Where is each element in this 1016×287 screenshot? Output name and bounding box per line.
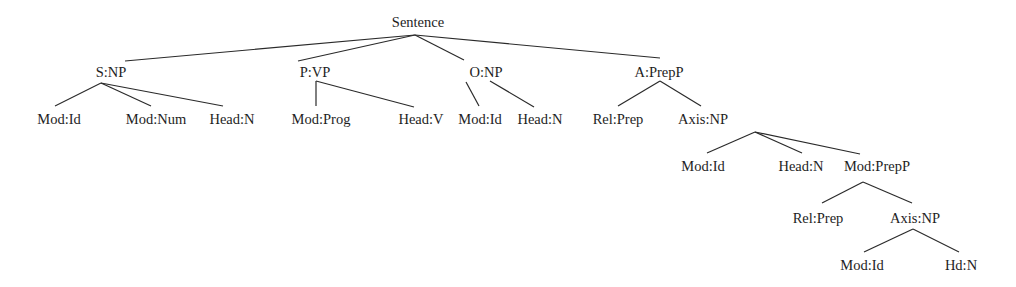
tree-node-root: Sentence <box>392 14 444 30</box>
tree-edge-o-np-to-mod-id-2 <box>466 82 479 106</box>
tree-node-rel-prep-2: Rel:Prep <box>793 210 844 226</box>
tree-node-mod-prog: Mod:Prog <box>292 111 351 127</box>
tree-edge-s-np-to-mod-num <box>101 83 151 106</box>
tree-edge-root-to-a-prepp <box>415 35 660 58</box>
tree-node-mod-id-3: Mod:Id <box>681 158 725 174</box>
tree-node-mod-prepp: Mod:PrepP <box>844 158 910 174</box>
tree-edge-a-prepp-to-axis-np-1 <box>660 81 701 106</box>
tree-edge-mod-prepp-to-axis-np-2 <box>863 182 912 203</box>
tree-edge-s-np-to-head-n-1 <box>101 83 223 106</box>
tree-edge-a-prepp-to-rel-prep-1 <box>618 81 660 106</box>
tree-node-head-n-3: Head:N <box>778 158 824 174</box>
tree-edge-axis-np-1-to-mod-id-3 <box>707 132 755 153</box>
tree-node-mod-num: Mod:Num <box>126 111 187 127</box>
tree-node-head-n-1: Head:N <box>209 111 255 127</box>
tree-node-mod-id-1: Mod:Id <box>37 111 81 127</box>
tree-node-s-np: S:NP <box>96 64 127 80</box>
tree-node-head-v: Head:V <box>398 111 444 127</box>
tree-node-hd-n: Hd:N <box>945 257 978 273</box>
tree-node-mod-id-2: Mod:Id <box>458 111 502 127</box>
tree-node-p-vp: P:VP <box>300 64 331 80</box>
tree-edge-axis-np-2-to-mod-id-4 <box>864 229 913 252</box>
tree-node-o-np: O:NP <box>469 64 502 80</box>
tree-edge-o-np-to-head-n-2 <box>490 81 534 107</box>
tree-nodes: SentenceS:NPP:VPO:NPA:PrepPMod:IdMod:Num… <box>37 14 977 273</box>
tree-edge-root-to-p-vp <box>298 35 415 61</box>
tree-edge-axis-np-1-to-head-n-3 <box>755 132 802 153</box>
tree-node-rel-prep-1: Rel:Prep <box>593 111 644 127</box>
tree-edge-axis-np-1-to-mod-prepp <box>755 132 860 154</box>
tree-edge-s-np-to-mod-id-1 <box>55 83 101 106</box>
tree-node-axis-np-1: Axis:NP <box>678 111 728 127</box>
tree-node-head-n-2: Head:N <box>517 111 563 127</box>
tree-node-mod-id-4: Mod:Id <box>840 257 884 273</box>
tree-node-a-prepp: A:PrepP <box>634 64 683 80</box>
syntax-tree-diagram: SentenceS:NPP:VPO:NPA:PrepPMod:IdMod:Num… <box>0 0 1016 287</box>
tree-edge-root-to-s-np <box>125 35 415 61</box>
tree-node-axis-np-2: Axis:NP <box>890 210 940 226</box>
tree-edge-axis-np-2-to-hd-n <box>913 229 959 252</box>
tree-edge-mod-prepp-to-rel-prep-2 <box>822 182 863 203</box>
tree-edge-p-vp-to-head-v <box>316 81 414 107</box>
